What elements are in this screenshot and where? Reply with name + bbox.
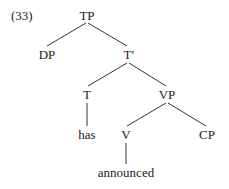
node-announced: announced [98,166,154,179]
node-tp: TP [79,9,94,22]
edge-vp-v [127,103,166,126]
edge-tp-tbar [88,23,127,46]
tree-edges [0,0,229,189]
edge-vp-cp [168,103,206,126]
edge-tbar-t [88,63,127,86]
edge-tbar-vp [129,63,166,86]
node-v: V [121,128,130,141]
node-t: T [83,88,91,101]
example-number: (33) [11,9,33,22]
node-dp: DP [39,48,56,61]
node-tbar: T′ [124,48,135,61]
node-has: has [78,128,95,141]
node-cp: CP [199,128,215,141]
edge-tp-dp [47,23,86,46]
node-vp: VP [159,88,176,101]
